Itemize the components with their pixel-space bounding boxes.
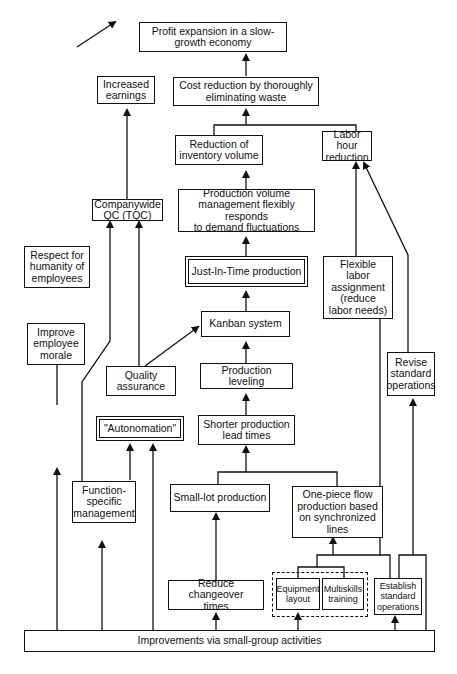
node-just-in-time: Just-In-Time production (185, 256, 308, 287)
node-one-piece-flow: One-piece flow production based on synch… (292, 486, 383, 538)
tps-structure-diagram: Profit expansion in a slow- growth econo… (0, 0, 457, 674)
node-revise-standard-operations: Revise standard operations (387, 352, 435, 396)
node-companywide-qc: Companywide QC (TQC) (92, 199, 163, 221)
node-increased-earnings: Increased earnings (97, 76, 155, 104)
node-function-specific-management: Function- specific management (72, 481, 136, 523)
node-cost-reduction: Cost reduction by thoroughly eliminating… (173, 77, 319, 106)
node-establish-standard-operations: Establish standard operations (374, 578, 422, 615)
node-kanban-system: Kanban system (201, 311, 290, 337)
node-small-lot-production: Small-lot production (170, 484, 270, 512)
node-just-in-time-label: Just-In-Time production (188, 259, 305, 284)
node-reduce-changeover: Reduce changeover times (168, 580, 264, 610)
node-shorter-lead-times: Shorter production lead times (198, 415, 295, 445)
node-flexible-labor-assignment: Flexible labor assignment (reduce labor … (323, 256, 393, 319)
node-autonomation: "Autonomation" (96, 416, 184, 441)
node-respect-humanity: Respect for humanity of employees (24, 246, 90, 288)
node-autonomation-label: "Autonomation" (99, 419, 181, 438)
node-multiskills-training: Multiskills training (322, 578, 364, 610)
node-inventory-reduction: Reduction of inventory volume (175, 135, 263, 165)
node-improve-morale: Improve employee morale (27, 323, 85, 365)
node-equipment-layout: Equipment layout (276, 578, 320, 610)
node-labor-hour-reduction: Labor hour reduction (322, 131, 372, 161)
node-small-group-improvements: Improvements via small-group activities (24, 630, 435, 652)
node-profit-expansion: Profit expansion in a slow- growth econo… (139, 22, 287, 52)
node-production-leveling: Production leveling (200, 363, 293, 389)
node-quality-assurance: Quality assurance (106, 366, 176, 396)
node-production-volume-management: Production volume management flexibly re… (178, 189, 315, 232)
